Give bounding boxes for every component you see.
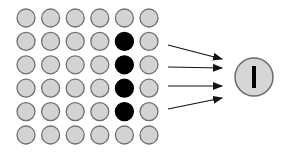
inactive-pixel	[91, 9, 109, 27]
inactive-pixel	[17, 103, 35, 121]
inactive-pixel	[140, 9, 158, 27]
inactive-pixel	[140, 126, 158, 144]
inactive-pixel	[66, 79, 84, 97]
active-pixel	[115, 56, 133, 74]
inactive-pixel	[115, 9, 133, 27]
inactive-pixel	[140, 32, 158, 50]
inactive-pixel	[91, 32, 109, 50]
inactive-pixel	[17, 32, 35, 50]
inactive-pixel	[66, 126, 84, 144]
inactive-pixel	[66, 103, 84, 121]
inactive-pixel	[42, 126, 60, 144]
inactive-pixel	[17, 126, 35, 144]
output-unit	[235, 58, 273, 96]
active-pixel	[115, 79, 133, 97]
inactive-pixel	[42, 9, 60, 27]
inactive-pixel	[66, 56, 84, 74]
inactive-pixel	[140, 79, 158, 97]
inactive-pixel	[42, 56, 60, 74]
inactive-pixel	[91, 103, 109, 121]
inactive-pixel	[115, 126, 133, 144]
inactive-pixel	[42, 79, 60, 97]
pixel-grid	[17, 9, 158, 144]
inactive-pixel	[42, 103, 60, 121]
inactive-pixel	[140, 56, 158, 74]
inactive-pixel	[140, 103, 158, 121]
inactive-pixel	[91, 56, 109, 74]
inactive-pixel	[42, 32, 60, 50]
active-pixel	[115, 32, 133, 50]
inactive-pixel	[17, 56, 35, 74]
pixel-to-feature-diagram	[0, 0, 285, 154]
inactive-pixel	[66, 32, 84, 50]
inactive-pixel	[91, 79, 109, 97]
arrow-icon	[168, 98, 222, 109]
connection-arrows	[168, 45, 222, 109]
arrow-icon	[168, 67, 222, 68]
inactive-pixel	[66, 9, 84, 27]
inactive-pixel	[17, 79, 35, 97]
inactive-pixel	[17, 9, 35, 27]
arrow-icon	[168, 45, 222, 59]
inactive-pixel	[91, 126, 109, 144]
active-pixel	[115, 103, 133, 121]
vertical-bar-icon	[252, 66, 256, 88]
